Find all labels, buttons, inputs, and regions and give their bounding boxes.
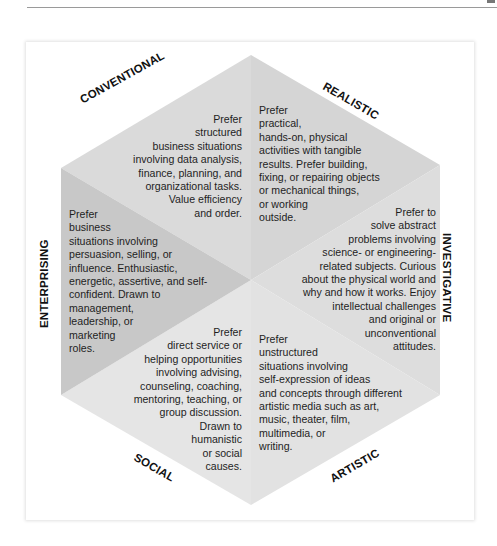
desc-enterprising: Prefer business situations involving per…	[69, 208, 207, 355]
label-investigative: INVESTIGATIVE	[441, 233, 453, 322]
desc-investigative: Prefer to solve abstract problems involv…	[302, 206, 436, 353]
label-enterprising: ENTERPRISING	[38, 239, 50, 328]
desc-artistic: Prefer unstructured situations involving…	[259, 333, 402, 454]
desc-conventional: Prefer structured business situations in…	[133, 113, 242, 220]
